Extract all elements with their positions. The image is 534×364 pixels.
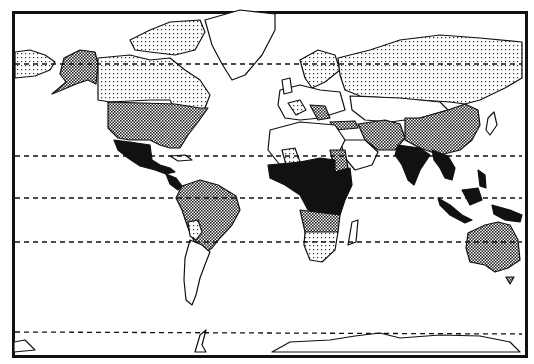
region-uk	[282, 78, 292, 94]
region-indonesia	[438, 198, 472, 223]
region-southeast-asia	[432, 150, 455, 180]
region-japan	[486, 112, 497, 135]
region-madagascar	[348, 220, 358, 245]
region-australia	[466, 222, 520, 272]
region-scandinavia	[300, 50, 340, 88]
region-greenland	[205, 10, 275, 80]
region-tasmania	[506, 277, 514, 284]
region-argentina	[184, 240, 210, 305]
region-south-africa	[304, 232, 338, 262]
region-antarctica-east	[272, 333, 520, 352]
antarctic-circle-line	[15, 332, 522, 334]
region-india	[395, 145, 430, 185]
region-alaska	[52, 50, 98, 94]
region-central-america	[166, 174, 182, 190]
region-russia	[338, 35, 522, 104]
region-south-america	[176, 180, 240, 255]
region-borneo	[462, 188, 482, 205]
region-papua	[492, 205, 522, 222]
region-antarctica	[14, 340, 35, 352]
world-map	[0, 0, 534, 364]
region-philippines	[478, 170, 486, 188]
region-arctic-islands	[130, 20, 205, 55]
